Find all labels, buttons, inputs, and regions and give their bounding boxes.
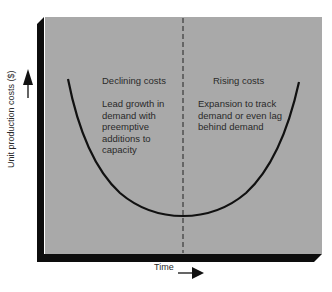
y-axis-arrow-icon (23, 69, 33, 85)
x-axis-label: Time (154, 262, 174, 272)
left-region-title: Declining costs (102, 75, 166, 86)
diagram-canvas (0, 0, 332, 292)
right-region-description: Expansion to track demand or even lag be… (198, 98, 282, 133)
cost-curve-diagram: Declining costs Lead growth in demand wi… (0, 0, 332, 292)
right-region-title: Rising costs (213, 75, 264, 86)
x-axis-arrow-icon (192, 267, 204, 279)
y-axis-label: Unit production costs ($) (6, 70, 16, 168)
left-region-description: Lead growth in demand with preemptive ad… (102, 98, 164, 156)
